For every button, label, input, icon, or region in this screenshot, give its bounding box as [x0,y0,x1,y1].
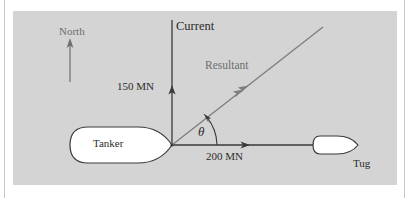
current-magnitude-label: 150 MN [117,81,154,92]
origin-point [170,143,173,146]
diagram-background [13,11,397,185]
current-label: Current [176,20,214,33]
tug-hull [313,136,358,154]
tug-magnitude-label: 200 MN [206,151,243,162]
resultant-label: Resultant [205,60,248,72]
tug-label: Tug [353,158,370,169]
tanker-label: Tanker [93,138,123,149]
angle-label: θ [198,125,204,138]
north-label: North [59,26,85,37]
figure-panel: North Current Resultant 150 MN 200 MN θ … [0,0,410,198]
